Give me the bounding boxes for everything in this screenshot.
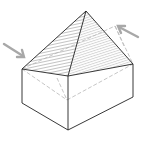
pyramid-roof-house-diagram (0, 0, 148, 141)
right-arrow-icon (118, 26, 138, 37)
left-arrow-icon (4, 44, 24, 57)
